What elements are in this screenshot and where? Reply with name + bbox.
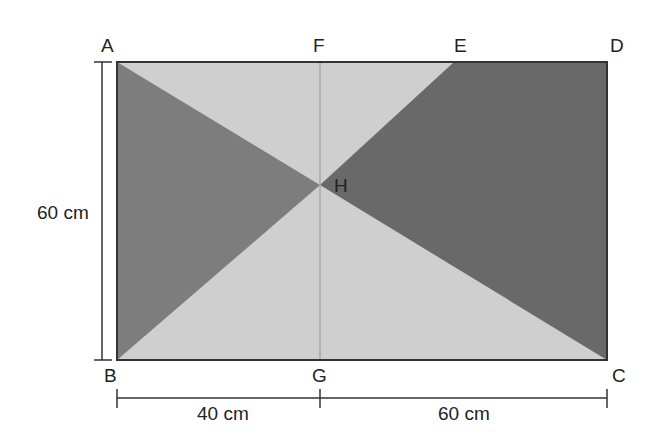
dimension-height <box>94 62 112 360</box>
label-f: F <box>313 35 325 56</box>
label-height-60cm: 60 cm <box>37 202 89 223</box>
label-bottom-60cm: 60 cm <box>438 403 490 424</box>
label-b: B <box>104 365 117 386</box>
label-d: D <box>610 35 624 56</box>
diagram-canvas: A F E D H B G C 60 cm 40 cm 60 cm <box>0 0 659 441</box>
label-g: G <box>312 365 327 386</box>
geometry-diagram: A F E D H B G C 60 cm 40 cm 60 cm <box>0 0 659 441</box>
label-h: H <box>334 175 348 196</box>
label-e: E <box>454 35 467 56</box>
label-c: C <box>612 365 626 386</box>
label-bottom-40cm: 40 cm <box>197 403 249 424</box>
dimension-bottom <box>117 389 607 408</box>
label-a: A <box>101 35 114 56</box>
